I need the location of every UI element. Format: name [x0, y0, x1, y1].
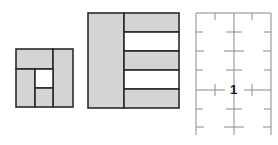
strip-5: [124, 89, 179, 108]
panel-top: [16, 49, 53, 69]
panel-bottom-left: [16, 69, 35, 107]
panel-bottom-center: [35, 88, 53, 107]
panel-right: [53, 49, 73, 107]
strip-3: [124, 51, 179, 70]
strip-4: [124, 70, 179, 89]
figure-3-grid: [196, 13, 271, 135]
left-panel: [88, 13, 124, 108]
strip-1: [124, 13, 179, 32]
grid-label: 1: [230, 82, 237, 97]
figure-1-square-frame: [16, 49, 73, 107]
diagram-canvas: [0, 0, 278, 145]
figure-2-striped-panel: [88, 13, 179, 108]
strip-2: [124, 32, 179, 51]
opening: [35, 69, 53, 88]
